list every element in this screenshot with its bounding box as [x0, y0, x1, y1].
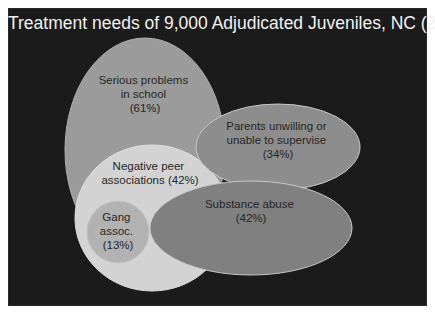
parents-ellipse — [196, 104, 360, 190]
set-substance-abuse — [150, 181, 352, 275]
label-gang-assoc: Gang assoc. (13%) — [100, 211, 136, 251]
set-parents — [196, 104, 360, 190]
venn-diagram: Serious problems in school (61%) Negativ… — [0, 0, 435, 315]
substance-abuse-ellipse — [150, 181, 352, 275]
